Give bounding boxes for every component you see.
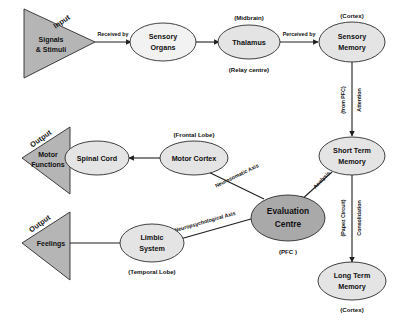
edge-label-neuropsychological-axis: Neuropsychological Axis	[174, 210, 236, 233]
thalamus-caption-bottom: (Relay centre)	[229, 66, 269, 73]
limbic-system-line2: System	[139, 244, 165, 253]
node-limbic-system: Limbic System (Temporal Lobe)	[120, 224, 184, 275]
limbic-system-line1: Limbic	[140, 233, 163, 242]
input-triangle-line2: & Stimuli	[36, 46, 66, 53]
edge-label-perceived-by: Perceived by	[283, 31, 316, 37]
motor-cortex-caption-top: (Frontal Lobe)	[174, 131, 215, 138]
triangle-input: Input Signals & Stimuli	[24, 9, 95, 78]
node-evaluation-centre: Evaluation Centre (PFC )	[251, 195, 325, 255]
sensory-memory-line2: Memory	[338, 43, 366, 52]
long-term-memory-caption-bottom: (Cortex)	[340, 306, 363, 313]
edge-label-consolidation: Consolidation	[356, 200, 362, 235]
edge-label-received-by: Received by	[98, 31, 129, 37]
triangle-output-feelings: Output Feelings	[22, 212, 70, 280]
spinal-cord-line1: Spinal Cord	[77, 154, 117, 163]
motor-output-line1: Motor	[38, 151, 58, 158]
edge-label-analysis: Analysis	[312, 170, 331, 190]
thalamus-line1: Thalamus	[232, 38, 266, 47]
diagram-canvas: Received by Perceived by (from PFC) Atte…	[0, 0, 404, 324]
short-term-memory-line1: Short Term	[333, 146, 371, 155]
evaluation-centre-shape	[251, 195, 325, 241]
short-term-memory-line2: Memory	[338, 157, 366, 166]
motor-output-line2: Functions	[31, 161, 65, 168]
sensory-organs-line1: Sensory	[149, 32, 177, 41]
sensory-organs-line2: Organs	[150, 43, 175, 52]
edge-label-layer: Received by Perceived by (from PFC) Atte…	[98, 31, 363, 236]
limbic-system-caption-bottom: (Temporal Lobe)	[128, 268, 175, 275]
sensory-memory-caption-top: (Cortex)	[340, 12, 363, 19]
feelings-output-line1: Feelings	[37, 240, 66, 248]
input-triangle-line1: Signals	[39, 36, 64, 44]
long-term-memory-line1: Long Term	[334, 271, 371, 280]
brain-information-flow-diagram: Received by Perceived by (from PFC) Atte…	[0, 0, 404, 324]
sensory-memory-line1: Sensory	[338, 32, 366, 41]
node-motor-cortex: (Frontal Lobe) Motor Cortex	[160, 131, 228, 175]
long-term-memory-line2: Memory	[338, 282, 366, 291]
triangle-output-motor: Output Motor Functions	[22, 127, 70, 194]
node-spinal-cord: Spinal Cord	[65, 141, 129, 175]
evaluation-centre-line1: Evaluation	[267, 206, 309, 216]
evaluation-centre-caption-bottom: (PFC )	[279, 248, 297, 255]
node-long-term-memory: Long Term Memory (Cortex)	[318, 262, 386, 313]
edge-label-papez-circuit: (Papez Circuit)	[340, 199, 346, 236]
node-sensory-memory: (Cortex) Sensory Memory	[319, 12, 385, 62]
node-thalamus: (Midbrain) Thalamus (Relay centre)	[218, 14, 280, 73]
edge-label-from-pfc: (from PFC)	[340, 86, 346, 114]
edge-label-attention: Attention	[356, 88, 362, 111]
node-sensory-organs: Sensory Organs	[130, 23, 196, 61]
motor-cortex-line1: Motor Cortex	[172, 154, 217, 163]
node-short-term-memory: Short Term Memory	[319, 137, 385, 175]
thalamus-caption-top: (Midbrain)	[234, 14, 263, 21]
evaluation-centre-line2: Centre	[275, 219, 302, 229]
